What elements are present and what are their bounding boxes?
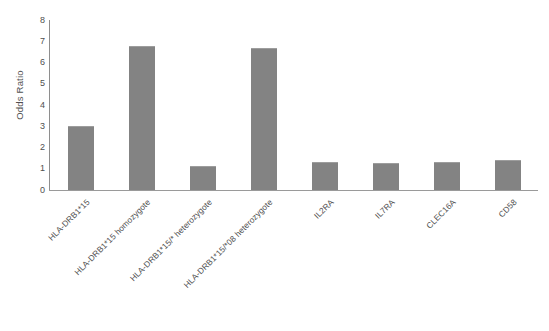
bar [312, 162, 338, 190]
bar [373, 163, 399, 190]
y-tick-8: 8 [29, 16, 45, 25]
x-tick-label: IL2RA [312, 197, 336, 221]
y-tick-5: 5 [29, 79, 45, 88]
x-tick-label: CLEC16A [424, 197, 458, 231]
odds-ratio-bar-chart: Odds Ratio 012345678 HLA-DRB1*15HLA-DRB1… [0, 0, 549, 331]
y-tick-7: 7 [29, 37, 45, 46]
plot-area [50, 20, 538, 190]
y-tick-6: 6 [29, 58, 45, 67]
bar [251, 48, 277, 190]
y-axis-tick-labels: 012345678 [28, 0, 45, 331]
x-tick-label: HLA-DRB1*15 [46, 197, 92, 243]
bar [190, 166, 216, 190]
bar [434, 162, 460, 190]
bar [129, 46, 155, 191]
x-axis-tick-labels: HLA-DRB1*15HLA-DRB1*15 homozygoteHLA-DRB… [50, 191, 538, 331]
bar [68, 126, 94, 190]
y-tick-0: 0 [29, 186, 45, 195]
bar [495, 160, 521, 190]
x-tick-label: CD58 [496, 197, 518, 219]
x-tick-label: IL7RA [373, 197, 397, 221]
y-axis-title: Odds Ratio [10, 0, 30, 190]
y-tick-2: 2 [29, 143, 45, 152]
y-tick-4: 4 [29, 101, 45, 110]
y-tick-3: 3 [29, 122, 45, 131]
y-tick-1: 1 [29, 164, 45, 173]
